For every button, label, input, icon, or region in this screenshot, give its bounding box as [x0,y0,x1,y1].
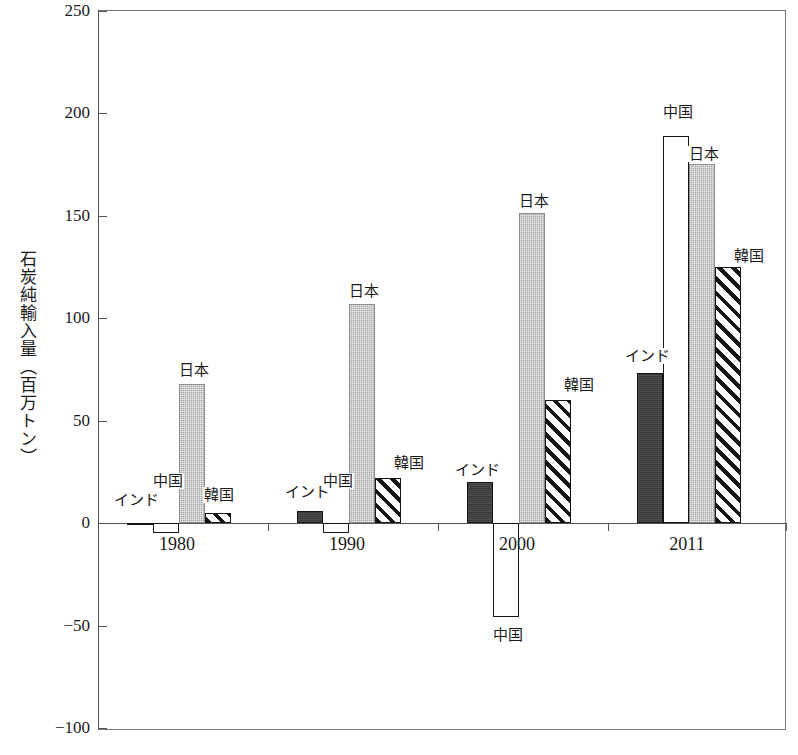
x-axis-tick-mark [786,523,787,531]
bar-japan-1990 [349,304,375,523]
x-axis-tick-label: 2011 [647,534,727,554]
bar-label-japan-2011: 日本 [688,146,720,162]
bar-china-1980 [153,523,179,533]
bar-korea-2000 [545,400,571,523]
bar-india-1990 [297,511,323,523]
bar-label-korea-1990: 韓国 [393,455,425,471]
bar-korea-2011 [715,267,741,523]
bar-japan-2000 [519,213,545,523]
bar-japan-1980 [179,384,205,523]
x-axis-tick-label: 1990 [307,534,387,554]
bar-label-japan-1990: 日本 [348,283,380,299]
bar-label-japan-2000: 日本 [518,193,550,209]
x-axis-tick-label: 1980 [137,534,217,554]
bar-label-china-1980: 中国 [152,473,184,489]
bar-label-india-1980: インド [113,492,160,508]
bar-label-korea-2011: 韓国 [733,248,765,264]
bar-label-india-2000: インド [454,462,501,478]
bars-layer: インド中国日本韓国インド中国日本韓国インド中国日本韓国インド中国日本韓国 [0,0,798,755]
bottom-margin [0,744,798,755]
coal-net-imports-bar-chart: 石炭純輸入量（百万トン） 250200150100500−50−100 インド中… [0,0,798,755]
bar-label-china-2011: 中国 [662,104,694,120]
bar-label-japan-1980: 日本 [178,362,210,378]
x-axis-tick-mark [438,523,439,531]
bar-label-korea-1980: 韓国 [203,487,235,503]
bar-china-2011 [663,136,689,523]
bar-india-1980 [127,523,153,525]
bar-label-india-2011: インド [624,348,671,364]
bar-korea-1990 [375,478,401,523]
bar-india-2011 [637,373,663,523]
x-axis-tick-mark [268,523,269,531]
bar-india-2000 [467,482,493,523]
bar-japan-2011 [689,164,715,523]
bar-china-1990 [323,523,349,533]
bar-korea-1980 [205,513,231,523]
bar-label-korea-2000: 韓国 [563,377,595,393]
x-axis-tick-mark [98,523,99,531]
bar-label-china-1990: 中国 [322,473,354,489]
x-axis-tick-mark [608,523,609,531]
x-axis-tick-label: 2000 [477,534,557,554]
bar-label-china-2000: 中国 [492,627,524,643]
